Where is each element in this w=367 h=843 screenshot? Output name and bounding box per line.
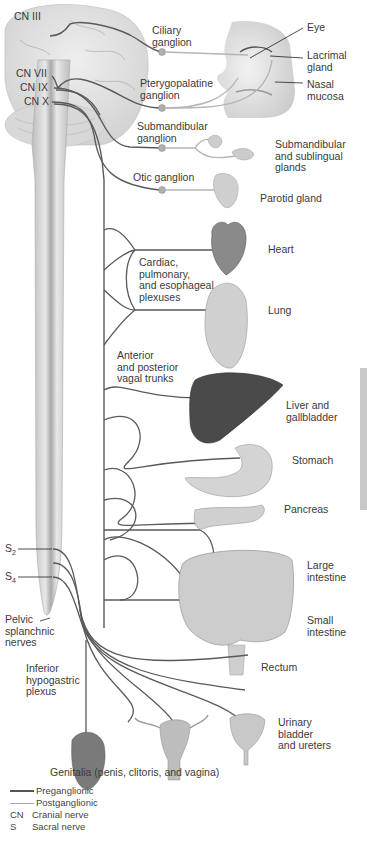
- genitalia-caption: Genitalia (penis, clitoris, and vagina): [50, 766, 219, 778]
- label-submandibular-ganglion: Submandibular ganglion: [137, 121, 208, 144]
- label-pelvic-splanchnic-nerves: Pelvic splanchnic nerves: [5, 614, 55, 649]
- liver-illustration: [190, 373, 283, 443]
- label-ciliary-ganglion: Ciliary ganglion: [152, 25, 192, 48]
- label-eye: Eye: [307, 22, 325, 34]
- label-stomach: Stomach: [292, 455, 333, 467]
- bladder-illustration: [230, 714, 265, 765]
- side-tab-bar: [360, 368, 367, 510]
- postganglionic-line-icon: [10, 803, 34, 804]
- otic-ganglion-icon: [159, 187, 166, 194]
- pterygopalatine-ganglion-icon: [159, 105, 166, 112]
- pancreas-illustration: [194, 505, 264, 529]
- label-cn-iii: CN III: [14, 11, 41, 23]
- submandibular-ganglion-icon: [159, 145, 166, 152]
- heart-illustration: [212, 222, 246, 275]
- intestines-illustration: [179, 550, 294, 645]
- pelvic-organs: [72, 714, 265, 790]
- label-s4: S4: [5, 571, 16, 587]
- label-pancreas: Pancreas: [284, 504, 328, 516]
- spinal-cord: [32, 60, 70, 615]
- stomach-illustration: [185, 444, 272, 496]
- head-glands: [208, 135, 254, 208]
- label-nasal-mucosa: Nasal mucosa: [307, 79, 344, 102]
- label-lacrimal-gland: Lacrimal gland: [307, 50, 347, 73]
- label-s2: S2: [5, 543, 16, 559]
- label-cn-x: CN X: [24, 96, 49, 108]
- label-urinary-bladder: Urinary bladder and ureters: [278, 717, 331, 752]
- rectum-illustration: [228, 645, 245, 675]
- legend-postganglionic: Postganglionic: [10, 797, 98, 809]
- label-cn-vii: CN VII: [16, 68, 47, 80]
- label-otic-ganglion: Otic ganglion: [133, 172, 194, 184]
- label-liver-gallbladder: Liver and gallbladder: [286, 400, 337, 423]
- legend-abbr-cn: CN Cranial nerve: [10, 809, 98, 821]
- label-rectum: Rectum: [261, 662, 297, 674]
- label-parotid-gland: Parotid gland: [260, 193, 322, 205]
- label-large-intestine: Large intestine: [307, 560, 346, 583]
- legend-abbr-s: S Sacral nerve: [10, 821, 98, 833]
- label-small-intestine: Small intestine: [307, 615, 346, 638]
- label-submandibular-sublingual-glands: Submandibular and sublingual glands: [275, 139, 346, 174]
- label-pterygopalatine-ganglion: Pterygopalatine ganglion: [140, 78, 213, 101]
- label-cn-ix: CN IX: [20, 82, 48, 94]
- label-vagal-trunks: Anterior and posterior vagal trunks: [117, 350, 178, 385]
- penis-illustration: [72, 732, 105, 790]
- label-heart: Heart: [268, 244, 294, 256]
- preganglionic-line-icon: [10, 790, 34, 792]
- legend-preganglionic: Preganglionic: [10, 785, 98, 797]
- label-inferior-hypogastric-plexus: Inferior hypogastric plexus: [26, 663, 80, 698]
- label-lung: Lung: [268, 305, 291, 317]
- label-cardiac-plexuses: Cardiac, pulmonary, and esophageal plexu…: [139, 257, 214, 303]
- legend: Preganglionic Postganglionic CN Cranial …: [10, 785, 98, 833]
- ciliary-ganglion-icon: [159, 49, 166, 56]
